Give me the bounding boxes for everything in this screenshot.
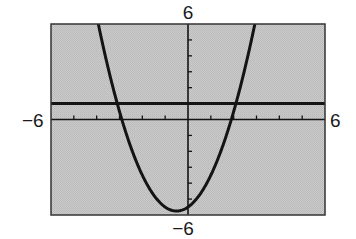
y-max-label: 6 [183,3,194,22]
x-max-label: 6 [330,111,341,130]
graphing-calculator-plot [0,0,356,239]
x-min-label: −6 [22,111,44,130]
y-min-label: −6 [172,219,194,238]
